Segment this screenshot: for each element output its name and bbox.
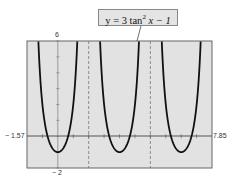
label-leader-line bbox=[137, 26, 141, 41]
x-min-label: − 1.57 bbox=[5, 132, 25, 139]
x-max-label: 7.85 bbox=[213, 132, 227, 139]
y-max-label: 6 bbox=[55, 31, 59, 38]
graph-plot bbox=[0, 0, 231, 181]
y-min-label: − 2 bbox=[52, 169, 62, 176]
equation-label: y = 3 tan2 x − 1 bbox=[98, 9, 178, 26]
plot-area bbox=[27, 41, 212, 168]
